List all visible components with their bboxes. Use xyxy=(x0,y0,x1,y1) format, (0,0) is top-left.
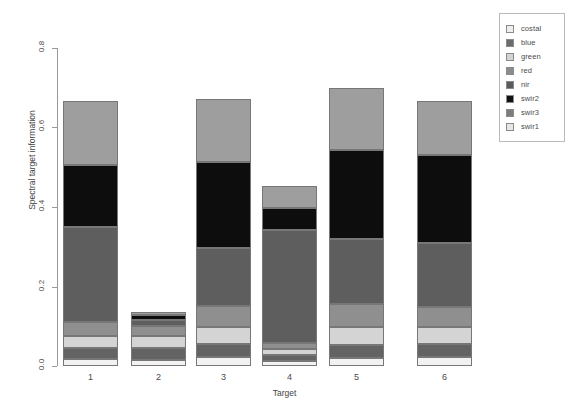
legend-item-swir3: swir3 xyxy=(506,106,559,119)
x-tick-label: 1 xyxy=(63,372,118,382)
y-tick-label: 0.0 xyxy=(0,360,48,369)
y-tick-label: 0.6 xyxy=(0,121,48,130)
bar-3 xyxy=(196,0,251,414)
bar-segment-nir xyxy=(131,326,186,336)
y-tick-mark xyxy=(52,287,57,288)
bar-segment-swir1 xyxy=(63,359,118,366)
bar-segment-costal xyxy=(417,101,472,155)
x-tick-label: 6 xyxy=(417,372,472,382)
bar-segment-swir2 xyxy=(131,336,186,348)
legend: costalbluegreenrednirswir2swir3swir1 xyxy=(499,13,565,142)
bar-segment-swir2 xyxy=(262,349,317,355)
bar-segment-swir3 xyxy=(262,355,317,361)
y-tick-mark xyxy=(52,366,57,367)
legend-item-nir: nir xyxy=(506,78,559,91)
bar-segment-red xyxy=(417,243,472,307)
bar-segment-swir2 xyxy=(329,327,384,345)
bar-segment-nir xyxy=(417,307,472,327)
x-axis-title: Target xyxy=(0,388,569,398)
bar-segment-nir xyxy=(196,306,251,327)
legend-label: costal xyxy=(521,24,541,33)
legend-swatch-icon xyxy=(506,95,514,103)
legend-swatch-icon xyxy=(506,123,514,131)
x-tick-label: 5 xyxy=(329,372,384,382)
x-tick-label: 4 xyxy=(262,372,317,382)
bar-6 xyxy=(417,0,472,414)
legend-swatch-icon xyxy=(506,53,514,61)
stacked-bar-chart: 0.80.60.40.20.0 Spectral target informat… xyxy=(0,0,569,414)
bar-2 xyxy=(131,0,186,414)
bar-segment-costal xyxy=(196,99,251,162)
legend-swatch-icon xyxy=(506,39,514,47)
legend-label: swir1 xyxy=(521,122,539,131)
bar-segment-costal xyxy=(131,312,186,315)
bar-segment-swir2b xyxy=(196,162,251,248)
bar-segment-nir xyxy=(329,304,384,327)
bar-segment-swir2 xyxy=(63,336,118,348)
x-tick-label: 3 xyxy=(196,372,251,382)
bar-5 xyxy=(329,0,384,414)
y-tick-mark xyxy=(52,127,57,128)
legend-item-swir2: swir2 xyxy=(506,92,559,105)
legend-swatch-icon xyxy=(506,109,514,117)
bar-segment-swir1 xyxy=(262,361,317,366)
bar-segment-red xyxy=(329,239,384,304)
legend-label: green xyxy=(521,52,541,61)
bar-segment-swir2 xyxy=(417,327,472,344)
legend-swatch-icon xyxy=(506,81,514,89)
y-axis-line xyxy=(57,48,58,366)
y-axis-title: Spectral target information xyxy=(27,80,37,240)
bar-segment-swir1 xyxy=(417,357,472,366)
bar-segment-costal xyxy=(63,101,118,165)
bar-segment-swir2b xyxy=(63,165,118,227)
bar-segment-costal xyxy=(262,186,317,208)
bar-segment-red xyxy=(196,248,251,306)
bar-segment-nir xyxy=(63,322,118,336)
legend-swatch-icon xyxy=(506,25,514,33)
bar-1 xyxy=(63,0,118,414)
legend-item-red: red xyxy=(506,64,559,77)
bar-segment-red xyxy=(63,227,118,322)
y-tick-label: 0.4 xyxy=(0,201,48,210)
bar-segment-costal xyxy=(329,88,384,150)
legend-item-costal: costal xyxy=(506,22,559,35)
bar-segment-swir3 xyxy=(131,348,186,360)
bar-segment-swir1 xyxy=(196,357,251,366)
legend-item-blue: blue xyxy=(506,36,559,49)
legend-item-swir1: swir1 xyxy=(506,120,559,133)
bar-segment-red xyxy=(262,230,317,343)
legend-label: swir2 xyxy=(521,94,539,103)
bar-segment-swir3 xyxy=(417,344,472,357)
y-tick-label: 0.2 xyxy=(0,281,48,290)
bar-segment-swir2b xyxy=(329,150,384,239)
bar-segment-swir2b xyxy=(417,155,472,243)
legend-label: nir xyxy=(521,80,530,89)
bar-4 xyxy=(262,0,317,414)
bar-segment-swir3 xyxy=(329,345,384,358)
legend-item-green: green xyxy=(506,50,559,63)
y-tick-mark xyxy=(52,207,57,208)
legend-label: red xyxy=(521,66,532,75)
bar-segment-red xyxy=(131,320,186,326)
bar-segment-swir1 xyxy=(329,358,384,366)
y-tick-mark xyxy=(52,48,57,49)
bar-segment-nir xyxy=(262,343,317,349)
bar-segment-swir1 xyxy=(131,360,186,366)
legend-label: blue xyxy=(521,38,536,47)
legend-swatch-icon xyxy=(506,67,514,75)
bar-segment-swir2 xyxy=(196,327,251,344)
bar-segment-swir3 xyxy=(196,344,251,357)
y-tick-label: 0.8 xyxy=(0,42,48,51)
legend-label: swir3 xyxy=(521,108,539,117)
x-tick-label: 2 xyxy=(131,372,186,382)
bar-segment-swir2b xyxy=(131,315,186,320)
bar-segment-swir2b xyxy=(262,208,317,230)
bar-segment-swir3 xyxy=(63,348,118,359)
